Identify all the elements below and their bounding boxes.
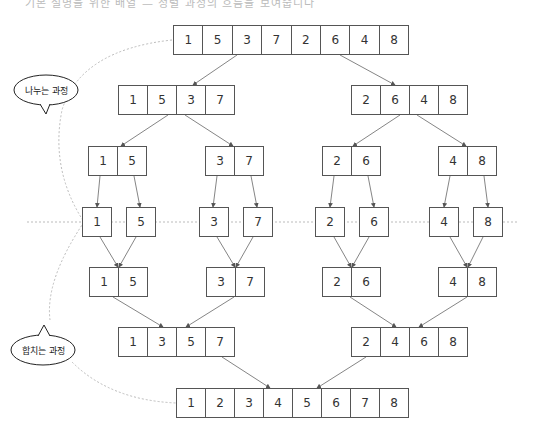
divide-arrows [97, 55, 488, 207]
array-cell: 3 [206, 267, 236, 297]
array-cell: 2 [315, 207, 345, 237]
array-cell: 5 [126, 207, 156, 237]
array-cell: 1 [89, 267, 119, 297]
array-cell: 8 [379, 25, 409, 55]
array-cell: 1 [82, 207, 112, 237]
array-cell: 1 [173, 25, 203, 55]
array-cell: 3 [176, 85, 206, 115]
array-cell: 3 [232, 25, 262, 55]
array-cell: 5 [147, 85, 177, 115]
array-cell: 3 [205, 146, 235, 176]
array-cell: 1 [118, 85, 148, 115]
array-cell: 8 [467, 267, 497, 297]
array-cell: 6 [351, 146, 381, 176]
array-cell: 5 [202, 25, 232, 55]
array-cell: 4 [349, 25, 379, 55]
array-cell: 1 [118, 327, 148, 357]
array-cell: 4 [409, 85, 439, 115]
merge-sort-diagram: 기본 설명을 위한 배열 — 정렬 과정의 흐름을 보여줍니다 [0, 0, 534, 443]
array-cell: 3 [147, 327, 177, 357]
array-cell: 6 [359, 207, 389, 237]
array-cell: 2 [351, 85, 381, 115]
array-cell: 7 [261, 25, 291, 55]
array-cell: 2 [322, 146, 352, 176]
array-cell: 8 [379, 388, 409, 418]
merge-bracket-curve-lower [72, 362, 176, 403]
array-cell: 8 [438, 327, 468, 357]
array-cell: 6 [351, 267, 381, 297]
array-cell: 1 [176, 388, 206, 418]
array-cell: 4 [380, 327, 410, 357]
array-cell: 1 [88, 146, 118, 176]
merge-process-label: 합치는 과정 [22, 344, 65, 357]
array-cell: 5 [118, 267, 148, 297]
array-cell: 3 [199, 207, 229, 237]
array-cell: 2 [322, 267, 352, 297]
array-cell: 2 [351, 327, 381, 357]
divide-bracket-curve [59, 40, 172, 222]
array-cell: 6 [321, 388, 351, 418]
merge-bracket-curve [49, 222, 84, 320]
array-cell: 2 [291, 25, 321, 55]
array-cell: 5 [292, 388, 322, 418]
array-cell: 6 [380, 85, 410, 115]
array-cell: 8 [438, 85, 468, 115]
array-cell: 8 [473, 207, 503, 237]
array-cell: 4 [438, 267, 468, 297]
array-cell: 8 [467, 146, 497, 176]
array-cell: 6 [320, 25, 350, 55]
array-cell: 3 [234, 388, 264, 418]
array-cell: 6 [409, 327, 439, 357]
array-cell: 7 [235, 267, 265, 297]
divide-process-label: 나누는 과정 [25, 84, 68, 97]
array-cell: 7 [350, 388, 380, 418]
array-cell: 5 [176, 327, 206, 357]
merge-arrows [100, 237, 483, 388]
array-cell: 7 [234, 146, 264, 176]
array-cell: 4 [429, 207, 459, 237]
array-cell: 4 [263, 388, 293, 418]
array-cell: 4 [438, 146, 468, 176]
array-cell: 5 [117, 146, 147, 176]
array-cell: 7 [205, 85, 235, 115]
array-cell: 7 [243, 207, 273, 237]
array-cell: 2 [205, 388, 235, 418]
array-cell: 7 [205, 327, 235, 357]
